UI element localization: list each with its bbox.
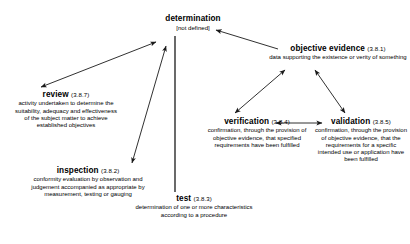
node-review-definition: activity undertaken to determine the sui…: [12, 100, 120, 129]
node-objective-evidence-definition: data supporting the existence or verity …: [268, 54, 408, 61]
node-determination[interactable]: determination [not defined]: [140, 14, 246, 32]
node-verification-term: verification (3.8.4): [196, 117, 318, 126]
diagram-canvas: determination [not defined] objective ev…: [0, 0, 410, 244]
node-validation-ref: (3.8.5): [373, 118, 391, 125]
node-review-ref: (3.8.7): [71, 91, 89, 98]
node-validation-term: validation (3.8.5): [314, 117, 408, 126]
node-objective-evidence-term: objective evidence (3.8.1): [268, 44, 408, 53]
node-objective-evidence[interactable]: objective evidence (3.8.1) data supporti…: [268, 44, 408, 62]
node-test-ref: (3.8.3): [194, 195, 212, 202]
node-verification[interactable]: verification (3.8.4) confirmation, throu…: [196, 117, 318, 149]
connector-inspection-determination: [132, 46, 166, 163]
node-validation-definition: confirmation, through the provision of o…: [314, 127, 408, 164]
node-test-definition: determination of one or more characteris…: [132, 204, 256, 219]
node-review[interactable]: review (3.8.7) activity undertaken to de…: [12, 90, 120, 129]
node-test[interactable]: test (3.8.3) determination of one or mor…: [132, 194, 256, 219]
node-inspection-term: inspection (3.8.2): [30, 166, 146, 175]
node-verification-definition: confirmation, through the provision of o…: [196, 127, 318, 149]
node-objective-evidence-ref: (3.8.1): [367, 45, 385, 52]
node-inspection[interactable]: inspection (3.8.2) conformity evaluation…: [30, 166, 146, 198]
node-verification-ref: (3.8.4): [271, 118, 289, 125]
node-review-term: review (3.8.7): [12, 90, 120, 99]
node-inspection-definition: conformity evaluation by observation and…: [30, 176, 146, 198]
connector-review-determination: [41, 42, 156, 87]
node-determination-definition: [not defined]: [140, 24, 246, 31]
node-test-term: test (3.8.3): [132, 194, 256, 203]
connector-verification-objective-evidence: [235, 70, 285, 113]
node-validation[interactable]: validation (3.8.5) confirmation, through…: [314, 117, 408, 164]
node-inspection-ref: (3.8.2): [101, 167, 119, 174]
connector-validation-objective-evidence: [315, 70, 345, 113]
node-determination-term: determination: [140, 14, 246, 23]
